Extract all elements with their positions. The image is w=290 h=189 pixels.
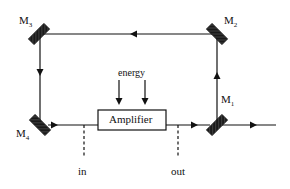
mirror-m2-label: M2 — [224, 15, 237, 29]
arrow-left-icon — [130, 31, 137, 38]
out-label: out — [171, 166, 185, 177]
arrow-down-icon — [142, 98, 149, 105]
arrow-up-icon — [214, 72, 221, 79]
in-label: in — [78, 166, 87, 177]
energy-arrows — [116, 80, 149, 105]
energy-label: energy — [118, 68, 145, 78]
arrow-right-icon — [51, 122, 58, 129]
arrow-down-icon — [116, 98, 123, 105]
mirror-m1-label: M1 — [221, 94, 234, 108]
cavity-diagram — [0, 0, 290, 189]
arrow-down-icon — [37, 69, 44, 76]
arrow-right-icon — [250, 122, 257, 129]
mirror-m3-label: M3 — [19, 15, 32, 29]
arrow-right-icon — [191, 122, 198, 129]
mirror-m4-label: M4 — [16, 128, 29, 142]
amplifier-label: Amplifier — [109, 114, 152, 125]
